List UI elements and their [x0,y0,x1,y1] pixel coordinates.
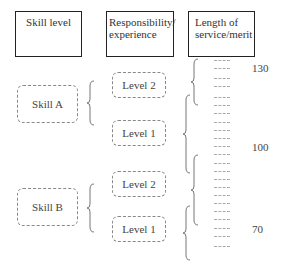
scale-label-130: 130 [252,62,269,74]
header-responsibility: Responsibility/ experience [106,11,174,57]
header-skill-level: Skill level [15,11,82,57]
skill-a-level-1-label: Level 1 [122,127,155,139]
skill-b-label: Skill B [32,201,63,213]
scale-dash [214,138,230,141]
scale-dash [214,130,230,133]
scale-dash [214,154,230,157]
header-responsibility-line2: experience [109,28,173,40]
header-length-line1: Length of [195,16,254,28]
skill-a-level-2-label: Level 2 [122,79,155,91]
scale-dash [214,211,230,214]
scale-label-100: 100 [252,141,269,153]
scale-label-70: 70 [252,223,263,235]
skill-a-label: Skill A [32,98,63,110]
skill-a-box: Skill A [17,85,78,123]
scale-dash [214,68,230,71]
scale-dash [214,236,230,239]
scale-dash [214,179,230,182]
scale-dash [214,203,230,206]
skill-a-level-1-box: Level 1 [112,120,166,146]
b-level-1-service-brace-icon [182,205,192,261]
scale-dash [214,246,230,249]
skill-a-level-2-box: Level 2 [112,72,166,98]
scale-dash [214,187,230,190]
skill-b-level-1-label: Level 1 [122,223,155,235]
scale-dash [214,122,230,125]
scale-dash [214,219,230,222]
scale-dash [214,163,230,166]
scale-dash [214,78,230,81]
scale-dash [214,171,230,174]
scale-dash [214,195,230,198]
header-length-of-service: Length of service/merit [188,11,255,57]
skill-a-brace-icon [86,80,96,126]
skill-b-box: Skill B [17,188,78,226]
header-responsibility-line1: Responsibility/ [109,16,173,28]
scale-dash [214,113,230,116]
header-skill-level-text: Skill level [16,16,81,28]
skill-b-level-2-box: Level 2 [112,171,166,197]
skill-b-brace-icon [86,183,96,233]
skill-b-level-2-label: Level 2 [122,178,155,190]
scale-dash [214,60,230,63]
scale-dash [214,105,230,108]
header-length-line2: service/merit [195,28,254,40]
skill-b-level-1-box: Level 1 [112,216,166,242]
scale-dash [214,228,230,231]
scale-dash [214,146,230,149]
scale-dash [214,97,230,100]
scale-dash [214,86,230,89]
